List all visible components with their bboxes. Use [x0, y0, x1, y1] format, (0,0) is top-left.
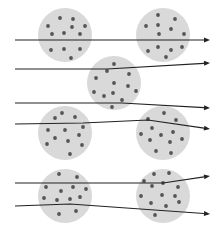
particle-cluster: [87, 56, 141, 110]
particle-dot: [83, 24, 87, 28]
arrowhead-icon: [204, 126, 210, 131]
particle-dot: [139, 194, 143, 198]
particle-dot: [164, 55, 168, 59]
particle-dot: [156, 45, 160, 49]
particle-dot: [92, 90, 96, 94]
cluster-circle: [136, 8, 190, 62]
particle-dot: [75, 175, 79, 179]
particle-dot: [77, 133, 81, 137]
particle-dot: [156, 23, 160, 27]
particle-dot: [111, 91, 115, 95]
particle-dot: [71, 17, 75, 21]
particle-dot: [127, 72, 131, 76]
particle-dot: [73, 115, 77, 119]
particle-dot: [69, 56, 73, 60]
particle-dot: [94, 76, 98, 80]
particle-dot: [105, 69, 109, 73]
particle-dot: [66, 139, 70, 143]
particle-dot: [144, 24, 148, 28]
particle-dot: [78, 47, 82, 51]
particle-dot: [112, 81, 116, 85]
particle-cluster: [38, 8, 92, 62]
particle-dot: [81, 125, 85, 129]
particle-dot: [53, 116, 57, 120]
particle-dot: [162, 111, 166, 115]
particle-dot: [173, 17, 177, 21]
particle-dot: [154, 149, 158, 153]
particle-dot: [169, 27, 173, 31]
arrowhead-icon: [204, 105, 210, 110]
particle-cluster: [38, 169, 92, 223]
cluster-circle: [38, 106, 92, 160]
particle-dot: [55, 198, 59, 202]
arrowhead-icon: [204, 61, 210, 66]
particle-dot: [142, 179, 146, 183]
particle-dot: [180, 45, 184, 49]
particle-dot: [49, 48, 53, 52]
particle-dot: [59, 189, 63, 193]
particle-dot: [182, 32, 186, 36]
cluster-circle: [38, 8, 92, 62]
particle-dot: [46, 24, 50, 28]
particle-dot: [46, 128, 50, 132]
particle-dot: [70, 25, 74, 29]
particle-dot: [120, 98, 124, 102]
arrowhead-icon: [204, 38, 210, 43]
particle-dot: [156, 13, 160, 17]
particle-cluster: [38, 106, 92, 160]
particle-dot: [126, 84, 130, 88]
particle-dot: [102, 94, 106, 98]
particle-dot: [53, 136, 57, 140]
particle-dot: [167, 171, 171, 175]
particle-cluster: [136, 106, 190, 160]
particle-dot: [78, 195, 82, 199]
particle-dot: [50, 32, 54, 36]
particle-dot: [169, 48, 173, 52]
particle-dot: [62, 31, 66, 35]
cluster-circle: [38, 169, 92, 223]
arrowhead-icon: [204, 174, 210, 179]
particle-dot: [150, 126, 154, 130]
particle-dot: [160, 193, 164, 197]
arrowhead-icon: [204, 211, 210, 216]
particle-dot: [112, 62, 116, 66]
particle-dot: [80, 143, 84, 147]
particle-dot: [146, 49, 150, 53]
particle-dot: [171, 130, 175, 134]
particle-dot: [60, 111, 64, 115]
particle-dot: [57, 172, 61, 176]
particle-dot: [42, 196, 46, 200]
particle-dot: [159, 133, 163, 137]
particle-dot: [134, 89, 138, 93]
particle-cluster: [136, 8, 190, 62]
particle-dot: [174, 118, 178, 122]
particle-dot: [180, 137, 184, 141]
particle-dot: [149, 201, 153, 205]
particle-dot: [157, 32, 161, 36]
particle-dot: [45, 142, 49, 146]
particle-dot: [152, 172, 156, 176]
particle-dot: [44, 185, 48, 189]
particle-dot: [110, 105, 114, 109]
particle-dot: [169, 151, 173, 155]
particle-dot: [57, 212, 61, 216]
particle-dot: [173, 194, 177, 198]
particle-dot: [68, 197, 72, 201]
particle-dot: [62, 47, 66, 51]
particle-dot: [148, 138, 152, 142]
particle-dot: [177, 200, 181, 204]
particle-dot: [168, 140, 172, 144]
particle-dot: [150, 184, 154, 188]
particle-dot: [164, 204, 168, 208]
particle-dot: [68, 152, 72, 156]
particle-dot: [71, 185, 75, 189]
particle-dot: [153, 213, 157, 217]
particle-dot: [176, 185, 180, 189]
particle-dot: [74, 209, 78, 213]
particle-dot: [139, 132, 143, 136]
particle-scattering-diagram: [0, 0, 220, 229]
particle-dot: [84, 187, 88, 191]
particle-dot: [78, 32, 82, 36]
particle-dot: [58, 16, 62, 20]
particle-dot: [63, 128, 67, 132]
